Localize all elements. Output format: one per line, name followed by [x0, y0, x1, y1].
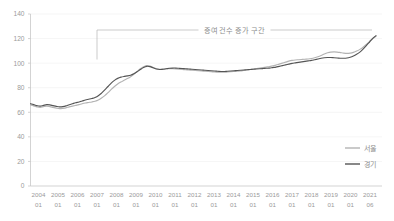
x-axis-tick-year: 2009	[129, 191, 143, 198]
x-axis-tick-month: 01	[152, 201, 159, 208]
x-axis-tick-month: 06	[367, 201, 374, 208]
x-axis-tick-month: 01	[133, 201, 140, 208]
x-axis-tick-year: 2010	[149, 191, 163, 198]
annotation-bracket: 증여 건수 증가 구간	[97, 24, 372, 59]
chart-container: 020406080100120140 200401200501200601200…	[0, 0, 394, 221]
x-axis-tick-month: 01	[289, 201, 296, 208]
gridlines	[31, 14, 383, 161]
x-axis-tick-month: 01	[35, 201, 42, 208]
x-axis-tick-year: 2018	[305, 191, 319, 198]
annotation-label: 증여 건수 증가 구간	[204, 26, 266, 35]
legend: 서울 경기	[345, 144, 377, 169]
x-axis-tick-month: 01	[172, 201, 179, 208]
x-axis-tick-month: 01	[328, 201, 335, 208]
x-axis-tick-year: 2015	[246, 191, 260, 198]
y-axis-tick-label: 20	[17, 158, 25, 165]
x-axis-tick-month: 01	[55, 201, 62, 208]
x-axis-tick-month: 01	[250, 201, 257, 208]
x-axis-tick-year: 2006	[71, 191, 85, 198]
y-axis-tick-label: 100	[13, 60, 24, 67]
line-chart: 020406080100120140 200401200501200601200…	[0, 0, 394, 221]
x-axis-tick-year: 2017	[285, 191, 299, 198]
y-axis-tick-labels: 020406080100120140	[13, 10, 24, 189]
x-axis-tick-year: 2019	[324, 191, 338, 198]
x-axis-tick-month: 01	[211, 201, 218, 208]
x-axis-tick-year: 2012	[188, 191, 202, 198]
legend-label-seoul: 서울	[364, 144, 377, 153]
x-axis-tick-month: 01	[191, 201, 198, 208]
x-axis-tick-year: 2005	[51, 191, 65, 198]
x-axis-tick-month: 01	[347, 201, 354, 208]
x-axis-tick-labels: 2004012005012006012007012008012009012010…	[32, 191, 378, 208]
x-axis-tick-year: 2011	[168, 191, 182, 198]
x-axis-tick-month: 01	[94, 201, 101, 208]
y-axis-tick-label: 40	[17, 133, 25, 140]
y-axis-tick-label: 120	[13, 35, 24, 42]
y-axis-tick-label: 80	[17, 84, 25, 91]
x-axis-tick-year: 2013	[207, 191, 221, 198]
x-axis-tick-month: 01	[308, 201, 315, 208]
x-axis-tick-year: 2020	[344, 191, 358, 198]
x-axis-tick-year: 2007	[90, 191, 104, 198]
series-line-seoul	[31, 36, 377, 108]
x-axis-tick-month: 01	[269, 201, 276, 208]
y-axis-tick-label: 0	[21, 182, 25, 189]
x-axis-tick-month: 01	[230, 201, 237, 208]
x-axis-tick-month: 01	[113, 201, 120, 208]
x-axis-tick-year: 2014	[227, 191, 241, 198]
x-axis-tick-month: 01	[74, 201, 81, 208]
y-axis-tick-label: 60	[17, 109, 25, 116]
x-axis-tick-year: 2016	[266, 191, 280, 198]
x-axis-tick-year: 2008	[110, 191, 124, 198]
x-axis-tick-year: 2021	[363, 191, 377, 198]
legend-label-gyeonggi: 경기	[364, 160, 376, 169]
x-axis-tick-year: 2004	[32, 191, 46, 198]
y-axis-tick-label: 140	[13, 10, 24, 17]
